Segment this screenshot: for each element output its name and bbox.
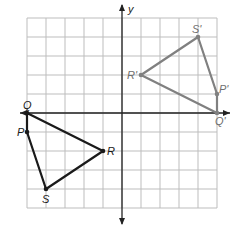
vertex-label: P' — [219, 83, 229, 95]
y-axis-arrow-down-icon — [119, 218, 125, 225]
vertex-labels: QPSRR'S'P'Q' — [17, 23, 229, 205]
vertex-label: R' — [127, 69, 138, 81]
coordinate-plane: y QPSRR'S'P'Q' — [0, 0, 240, 231]
vertex-point — [25, 111, 30, 116]
coordinate-plane-diagram: y QPSRR'S'P'Q' — [0, 0, 240, 231]
vertex-point — [25, 130, 30, 135]
vertex-label: R — [107, 145, 115, 157]
y-axis-arrow-up-icon — [119, 4, 125, 11]
vertex-label: S' — [192, 23, 202, 35]
vertex-label: Q — [23, 99, 32, 111]
vertex-label: P — [17, 126, 25, 138]
vertex-point — [196, 35, 201, 40]
vertex-point — [139, 73, 144, 78]
vertex-label: Q' — [215, 115, 227, 127]
vertex-point — [44, 187, 49, 192]
vertex-point — [101, 149, 106, 154]
vertex-label: S — [42, 193, 50, 205]
y-axis-label: y — [127, 3, 135, 15]
